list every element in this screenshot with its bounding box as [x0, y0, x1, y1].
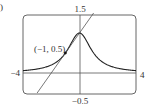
x-max-tick-label: 4: [140, 70, 145, 80]
x-min-tick-label: −4: [10, 68, 20, 78]
chart-canvas: ) (−1, 0.5) 1.5 −0.5 −4 4: [0, 0, 147, 108]
plot-frame: [23, 15, 136, 94]
y-min-tick-label: −0.5: [72, 96, 89, 106]
y-max-tick-label: 1.5: [74, 4, 86, 14]
point-annotation: (−1, 0.5): [34, 44, 65, 54]
figure-marker: ): [0, 2, 3, 12]
